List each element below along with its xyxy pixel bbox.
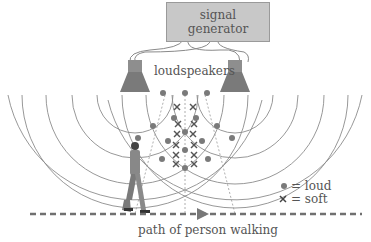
loudspeakers-label: loudspeakers xyxy=(154,64,235,78)
legend-soft-label: = soft xyxy=(291,192,328,206)
antinode-lines xyxy=(135,95,235,214)
left-loudspeaker-icon xyxy=(120,60,150,92)
path-label: path of person walking xyxy=(138,223,278,237)
legend-loud-dot-icon xyxy=(281,183,287,189)
path-arrow-icon xyxy=(197,208,209,220)
signal-generator-line2: generator xyxy=(167,22,269,36)
legend-loud-label: = loud xyxy=(291,179,331,193)
signal-generator-box: signal generator xyxy=(166,2,270,42)
signal-generator-line1: signal xyxy=(167,8,269,22)
walking-person-icon xyxy=(122,142,150,213)
cables xyxy=(130,40,249,62)
